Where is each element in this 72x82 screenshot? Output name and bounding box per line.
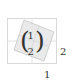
axis-label-right: 2 [60, 46, 66, 57]
axis-label-bottom: 1 [44, 69, 50, 80]
vector-top-entry: 1 [28, 30, 34, 41]
vector-close-paren: ) [35, 26, 45, 55]
vector-bottom-entry: 2 [28, 46, 34, 57]
matrix-diagram: ( 1 2 ) 2 1 [0, 0, 72, 82]
